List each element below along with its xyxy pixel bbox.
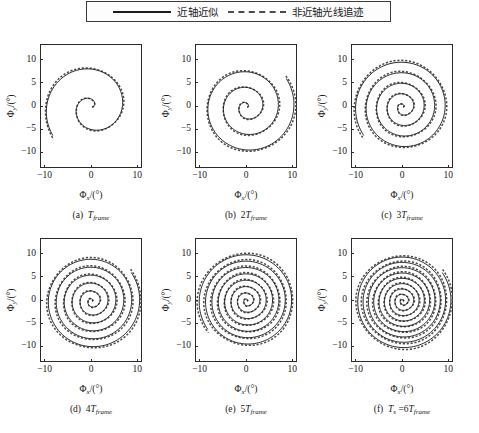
y-axis-symbol: Φ	[317, 304, 327, 311]
y-axis-label: Φy/(°)	[161, 270, 173, 330]
series-nonparaxial-raytrace	[354, 60, 447, 147]
x-tick-mark	[44, 359, 45, 362]
caption-equals: =6	[396, 404, 408, 414]
y-axis-unit: /(°)	[317, 94, 327, 107]
x-tick-mark	[246, 359, 247, 362]
panel-caption-c: (c) 3Tframe	[329, 210, 475, 222]
y-axis-unit: /(°)	[6, 288, 16, 301]
caption-subscript: frame	[251, 214, 267, 222]
y-tick-mark	[195, 346, 198, 347]
x-axis-unit: /(°)	[245, 190, 258, 200]
y-tick-mark	[195, 106, 198, 107]
series-nonparaxial-raytrace	[197, 253, 293, 345]
x-tick-mark	[292, 359, 293, 362]
y-tick-mark	[40, 300, 43, 301]
x-tick-mark	[137, 165, 138, 168]
y-tick-label: 0	[169, 101, 191, 111]
x-axis-label: Φx/(°)	[175, 190, 317, 202]
x-axis-label: Φx/(°)	[20, 190, 162, 202]
y-tick-mark	[195, 253, 198, 254]
x-tick-label: 10	[133, 171, 143, 181]
y-tick-mark	[351, 346, 354, 347]
caption-symbol: T	[409, 404, 414, 414]
spiral-plot	[352, 45, 454, 169]
y-tick-label: −10	[325, 342, 347, 352]
y-tick-label: 10	[14, 55, 36, 65]
x-tick-mark	[91, 359, 92, 362]
caption-symbol: T	[88, 210, 93, 220]
plot-panel-a: 1050−5−10−10010Φy/(°)Φx/(°)(a) Tframe	[0, 0, 479, 433]
caption-multiplier: 4	[86, 404, 91, 414]
y-tick-label: 5	[169, 272, 191, 282]
plot-panel-d: 1050−5−10−10010Φy/(°)Φx/(°)(d) 4Tframe	[0, 0, 479, 433]
y-tick-mark	[351, 253, 354, 254]
y-tick-label: −5	[169, 318, 191, 328]
x-axis-symbol: Φ	[391, 190, 398, 200]
plot-area	[40, 238, 142, 362]
x-tick-label: 10	[444, 171, 454, 181]
x-tick-mark	[44, 165, 45, 168]
figure-caption-partial	[0, 424, 479, 433]
x-tick-label: 0	[89, 171, 94, 181]
caption-subscript: frame	[96, 408, 112, 416]
x-axis-subscript: x	[398, 388, 401, 396]
series-paraxial-approximation	[48, 259, 139, 346]
y-tick-label: 0	[14, 295, 36, 305]
x-axis-label: Φx/(°)	[175, 384, 317, 396]
y-tick-mark	[40, 253, 43, 254]
y-tick-label: 0	[325, 101, 347, 111]
y-tick-mark	[195, 152, 198, 153]
y-tick-label: −10	[14, 342, 36, 352]
plot-panel-f: 1050−5−10−10010Φy/(°)Φx/(°)(f) Ts =6Tfra…	[0, 0, 479, 433]
y-axis-unit: /(°)	[6, 94, 16, 107]
y-tick-mark	[351, 106, 354, 107]
y-axis-subscript: y	[321, 107, 329, 110]
x-axis-unit: /(°)	[245, 384, 258, 394]
y-axis-label: Φy/(°)	[317, 270, 329, 330]
series-paraxial-approximation	[46, 69, 122, 136]
spiral-plot	[196, 45, 298, 169]
panel-caption-a: (a) Tframe	[18, 210, 164, 222]
caption-multiplier: 5	[240, 404, 245, 414]
y-tick-mark	[195, 323, 198, 324]
y-axis-label: Φy/(°)	[317, 76, 329, 136]
series-paraxial-approximation	[199, 255, 291, 344]
y-tick-mark	[40, 129, 43, 130]
y-tick-label: −5	[14, 124, 36, 134]
x-tick-label: 10	[444, 365, 454, 375]
x-axis-symbol: Φ	[80, 384, 87, 394]
y-tick-label: −10	[14, 148, 36, 158]
caption-symbol: T	[401, 210, 406, 220]
y-tick-mark	[351, 300, 354, 301]
y-tick-mark	[40, 152, 43, 153]
series-nonparaxial-raytrace	[45, 68, 123, 139]
y-axis-subscript: y	[321, 301, 329, 304]
series-paraxial-approximation	[208, 72, 294, 150]
y-tick-mark	[195, 129, 198, 130]
x-tick-mark	[246, 165, 247, 168]
plot-area	[351, 238, 453, 362]
x-axis-subscript: x	[242, 388, 245, 396]
caption-tag: (b)	[225, 210, 236, 220]
legend-label-nonparaxial: 非近轴光线追迹	[292, 4, 364, 19]
y-tick-label: 5	[325, 78, 347, 88]
caption-multiplier: 3	[396, 210, 401, 220]
x-tick-mark	[402, 359, 403, 362]
caption-tag: (a)	[73, 210, 84, 220]
x-tick-label: 0	[244, 365, 249, 375]
y-tick-mark	[40, 59, 43, 60]
legend-box: 近轴近似 非近轴光线追迹	[86, 1, 391, 22]
caption-symbol: T	[90, 404, 95, 414]
x-tick-mark	[199, 165, 200, 168]
x-tick-label: 0	[400, 365, 405, 375]
caption-multiplier: 2	[241, 210, 246, 220]
x-axis-unit: /(°)	[90, 384, 103, 394]
y-tick-label: −5	[169, 124, 191, 134]
y-tick-label: 10	[325, 249, 347, 259]
x-tick-mark	[448, 359, 449, 362]
x-axis-unit: /(°)	[401, 190, 414, 200]
y-axis-symbol: Φ	[161, 110, 171, 117]
y-axis-unit: /(°)	[161, 288, 171, 301]
panel-caption-f: (f) Ts =6Tframe	[329, 404, 475, 416]
x-tick-mark	[137, 359, 138, 362]
